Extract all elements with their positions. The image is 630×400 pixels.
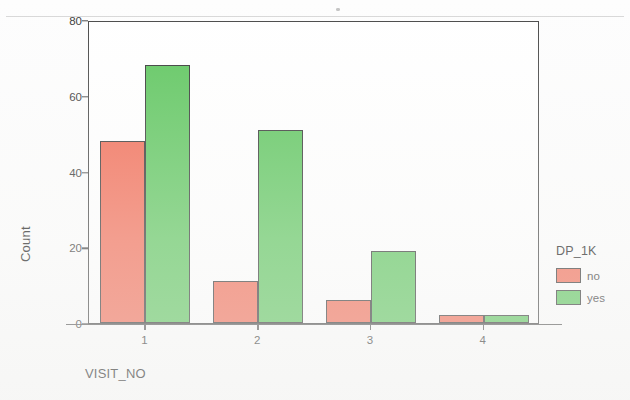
x-axis-tick-mark: [144, 324, 145, 330]
legend: DP_1K no yes: [556, 244, 628, 312]
legend-swatch-no-icon: [556, 268, 581, 283]
legend-swatch-yes-icon: [556, 290, 581, 305]
bars-layer: [89, 22, 538, 323]
y-axis-title: Count: [18, 226, 33, 262]
legend-label-yes: yes: [587, 292, 605, 304]
x-axis-tick-label: 4: [479, 334, 485, 346]
bar-yes-visit-3: [371, 251, 416, 323]
bar-no-visit-3: [326, 300, 371, 323]
legend-item-no[interactable]: no: [556, 268, 628, 283]
y-axis-tick-label: 80: [69, 15, 82, 27]
x-axis-tick-mark: [483, 324, 484, 330]
x-axis-title: VISIT_NO: [85, 366, 146, 381]
y-axis-tick-label: 40: [69, 167, 82, 179]
bar-yes-visit-2: [258, 130, 303, 323]
legend-item-yes[interactable]: yes: [556, 290, 628, 305]
x-axis-tick-label: 1: [141, 334, 147, 346]
bar-no-visit-1: [100, 141, 145, 323]
bar-yes-visit-1: [145, 65, 190, 323]
y-axis-tick-label: 60: [69, 91, 82, 103]
x-axis-tick-label: 2: [254, 334, 260, 346]
legend-title: DP_1K: [556, 244, 628, 258]
x-axis-tick-mark: [257, 324, 258, 330]
scan-artifact-dot: [336, 8, 340, 11]
bar-no-visit-2: [213, 281, 258, 323]
y-axis-tick-label: 20: [69, 242, 82, 254]
x-axis-tick-label: 3: [367, 334, 373, 346]
x-axis-tick-mark: [370, 324, 371, 330]
legend-label-no: no: [587, 270, 600, 282]
bar-no-visit-4: [439, 315, 484, 323]
y-axis-tick-labels: 020406080: [52, 21, 82, 324]
bar-yes-visit-4: [484, 315, 529, 323]
plot-area: [88, 21, 539, 324]
chart-figure: 020406080 Count 1234 VISIT_NO DP_1K no y…: [0, 0, 630, 400]
scan-artifact-line: [6, 16, 624, 17]
x-axis-line: [66, 324, 562, 325]
